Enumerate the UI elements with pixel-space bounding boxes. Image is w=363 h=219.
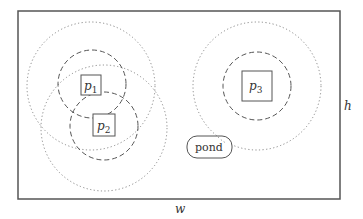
height-label: h	[344, 99, 352, 113]
pond-label: pond	[195, 141, 223, 154]
diagram-canvas: p1 p2 p3 pond h w	[0, 0, 363, 219]
width-label: w	[175, 202, 186, 216]
area-boundary	[18, 11, 340, 199]
